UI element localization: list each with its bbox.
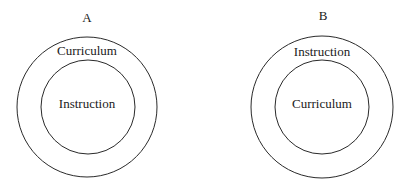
outer-text-a: Curriculum [57,43,117,58]
concentric-circle-diagrams: A Curriculum Instruction B Instruction C… [0,0,416,191]
diagram-a-label: A [82,10,92,25]
inner-text-b: Curriculum [292,96,352,111]
outer-text-b: Instruction [294,44,351,59]
diagram-b: B Instruction Curriculum [251,8,393,178]
diagram-b-label: B [319,8,328,23]
inner-text-a: Instruction [59,96,116,111]
diagram-a: A Curriculum Instruction [17,10,157,177]
